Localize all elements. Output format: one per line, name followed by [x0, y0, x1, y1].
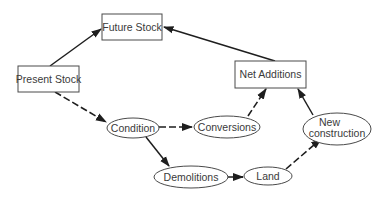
node-future-stock: Future Stock	[102, 14, 163, 40]
edge-newconstruction-to-netadditions	[298, 89, 313, 115]
edge-conversions-to-netadditions	[248, 89, 266, 116]
node-label: Net Additions	[240, 68, 302, 80]
node-demolitions: Demolitions	[154, 166, 228, 188]
edge-present-to-condition	[55, 92, 106, 122]
node-label: Condition	[111, 122, 156, 134]
node-label: Land	[256, 170, 280, 182]
edge-present-to-future	[50, 29, 101, 66]
node-label: Present Stock	[16, 73, 82, 85]
housing-stock-flow-diagram: Future Stock Present Stock Net Additions…	[0, 0, 380, 198]
node-label: Demolitions	[164, 171, 219, 183]
node-condition: Condition	[107, 118, 159, 138]
node-label: Future Stock	[102, 21, 162, 33]
node-new-construction: New construction	[303, 113, 371, 145]
node-label-line2: construction	[309, 127, 366, 139]
node-present-stock: Present Stock	[16, 66, 82, 92]
node-label: Conversions	[198, 121, 256, 133]
edge-land-to-newconstruction	[286, 139, 321, 169]
edge-condition-to-demolitions	[146, 137, 169, 166]
node-conversions: Conversions	[194, 116, 260, 138]
node-net-additions: Net Additions	[235, 61, 306, 88]
node-land: Land	[244, 167, 292, 185]
edge-netadditions-to-future	[164, 27, 275, 61]
